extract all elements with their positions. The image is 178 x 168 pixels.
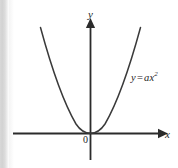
parabola-plot: [0, 0, 178, 168]
equation-coefficient: ax: [144, 72, 154, 83]
x-axis-label: x: [165, 129, 170, 140]
y-axis-label: y: [88, 9, 93, 20]
equation-exponent: 2: [154, 70, 158, 78]
equation-label: y=ax2: [131, 71, 158, 83]
figure-canvas: y x 0 y=ax2: [0, 0, 178, 168]
origin-label: 0: [83, 135, 88, 145]
equation-operator: =: [136, 72, 144, 83]
